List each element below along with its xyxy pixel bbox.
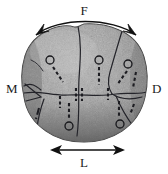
label-distal: D bbox=[152, 82, 161, 95]
specimen-blob bbox=[10, 20, 158, 146]
label-facial: F bbox=[80, 4, 87, 17]
figure-container: F M D L bbox=[0, 0, 168, 174]
straight-double-arrow bbox=[50, 145, 125, 155]
diagram-canvas bbox=[0, 0, 168, 174]
label-mesial: M bbox=[6, 82, 18, 95]
label-lingual: L bbox=[80, 156, 88, 169]
